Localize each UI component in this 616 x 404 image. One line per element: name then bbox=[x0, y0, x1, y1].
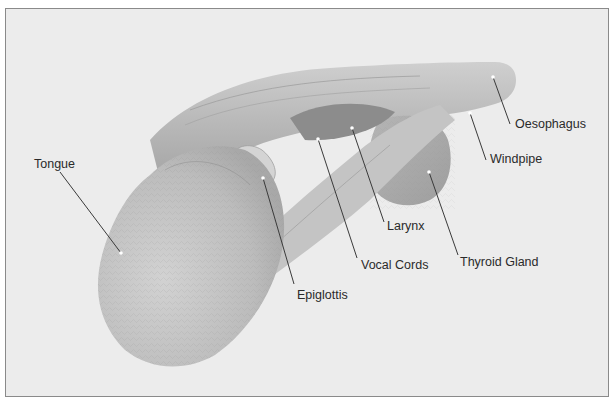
tongue-label: Tongue bbox=[34, 157, 75, 171]
oesophagus-pointer-dot bbox=[491, 75, 495, 79]
tongue-shape bbox=[98, 146, 284, 366]
tongue-leader-line bbox=[60, 172, 121, 253]
larynx-pointer-dot bbox=[350, 126, 354, 130]
thyroid-gland-label: Thyroid Gland bbox=[460, 255, 539, 269]
epiglottis-pointer-dot bbox=[261, 176, 265, 180]
thyroid-gland-pointer-dot bbox=[427, 170, 431, 174]
specimen-illustration bbox=[0, 0, 616, 404]
tongue-pointer-dot bbox=[119, 251, 123, 255]
windpipe-pointer-dot bbox=[468, 111, 472, 115]
vocal-cords-pointer-dot bbox=[316, 137, 320, 141]
windpipe-leader-line bbox=[470, 113, 486, 160]
larynx-label: Larynx bbox=[387, 219, 425, 233]
epiglottis-label: Epiglottis bbox=[297, 288, 348, 302]
windpipe-label: Windpipe bbox=[490, 152, 542, 166]
vocal-cords-label: Vocal Cords bbox=[361, 258, 428, 272]
oesophagus-label: Oesophagus bbox=[515, 117, 586, 131]
